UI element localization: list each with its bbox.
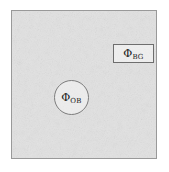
object-aperture-label: ΦOB xyxy=(61,92,81,103)
object-aperture-subscript: OB xyxy=(70,97,81,105)
object-aperture-circle: ΦOB xyxy=(54,80,89,115)
background-region-subscript: BG xyxy=(132,53,143,61)
background-region-box: ΦBG xyxy=(113,44,154,63)
object-aperture-symbol: Φ xyxy=(61,91,70,104)
aperture-photometry-figure: ΦOB ΦBG xyxy=(0,0,169,172)
image-field: ΦOB ΦBG xyxy=(11,10,157,159)
background-region-label: ΦBG xyxy=(123,48,143,59)
